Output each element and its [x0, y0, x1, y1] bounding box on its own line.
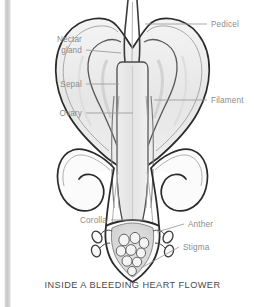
- stigma-lobe-7: [122, 256, 132, 266]
- label-pedicel: Pedicel: [211, 20, 239, 29]
- stigma-lobe-9: [128, 266, 137, 275]
- label-nectar-line1: Nectar: [57, 35, 82, 44]
- bleeding-heart-cross-section-svg: Pedicel Nectar gland Sepal Filament Ovar…: [11, 0, 254, 307]
- figure-caption: INSIDE A BLEEDING HEART FLOWER: [11, 280, 254, 290]
- anther-left-upper: [90, 229, 104, 244]
- stigma-lobe-1: [119, 234, 129, 246]
- label-anther: Anther: [188, 220, 213, 229]
- label-filament: Filament: [211, 96, 244, 105]
- anther-right-lower: [163, 244, 175, 258]
- label-sepal: Sepal: [60, 80, 82, 89]
- stigma-lobe-4: [116, 246, 126, 256]
- pedicel-midline: [132, 2, 133, 62]
- stigma-lobe-8: [132, 257, 141, 267]
- page-edge-bar: [4, 0, 11, 307]
- label-corolla: Corolla: [80, 216, 107, 225]
- stigma-lobe-2: [130, 232, 140, 243]
- label-nectar-line2: gland: [61, 46, 82, 55]
- corolla-petal-right: [151, 149, 207, 211]
- stigma-lobe-3: [139, 238, 149, 249]
- flower-figure: Pedicel Nectar gland Sepal Filament Ovar…: [11, 0, 254, 307]
- label-ovary: Ovary: [59, 109, 82, 118]
- stigma-lobe-6: [136, 248, 145, 258]
- label-stigma: Stigma: [183, 243, 210, 252]
- corolla-petal-left: [58, 149, 114, 211]
- diagram-page: Pedicel Nectar gland Sepal Filament Ovar…: [0, 0, 254, 307]
- anther-right-upper: [161, 229, 175, 244]
- ovary-group: [117, 62, 148, 224]
- stigma-lobe-5: [126, 245, 136, 256]
- anther-left-lower: [90, 244, 102, 258]
